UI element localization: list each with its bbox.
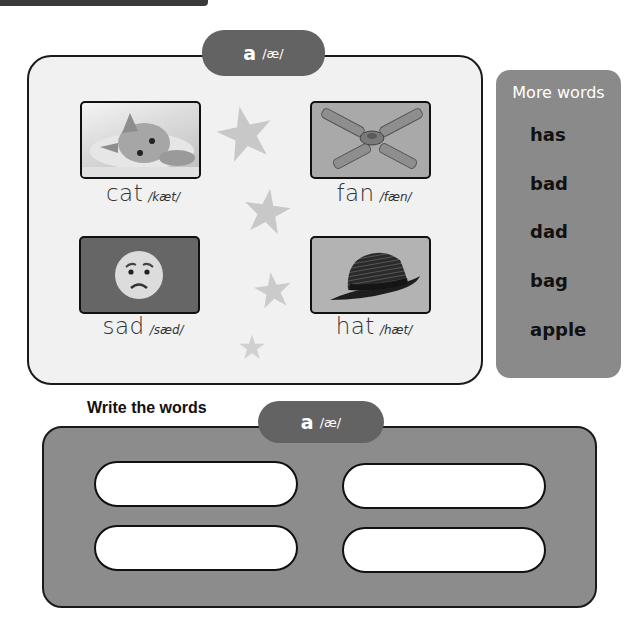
more-word-item: apple xyxy=(530,319,586,340)
star-icon xyxy=(250,270,296,310)
more-word-item: bag xyxy=(530,270,568,291)
word-label-fan: fan /fæn/ xyxy=(294,180,454,206)
write-words-heading: Write the words xyxy=(87,399,207,417)
star-icon xyxy=(238,333,266,361)
more-words-panel: More words has bad dad bag apple xyxy=(496,70,621,378)
picture-card-sad xyxy=(79,236,200,314)
word-label-hat: hat /hæt/ xyxy=(294,313,454,339)
phoneme-badge-write: a /æ/ xyxy=(258,401,384,443)
phoneme-ipa: /æ/ xyxy=(320,415,342,430)
top-banner-edge xyxy=(0,0,208,6)
fedora-hat-image xyxy=(312,238,431,312)
phoneme-ipa: /æ/ xyxy=(262,46,284,61)
word-input-1[interactable] xyxy=(94,461,298,507)
word-label-cat: cat /kæt/ xyxy=(63,180,223,206)
kitten-image xyxy=(82,103,199,177)
more-word-item: dad xyxy=(530,221,568,242)
more-words-title: More words xyxy=(496,83,621,102)
picture-card-hat xyxy=(310,236,431,314)
star-icon xyxy=(242,186,292,236)
word-input-3[interactable] xyxy=(94,525,298,571)
ceiling-fan-image xyxy=(312,103,431,177)
phoneme-badge: a /æ/ xyxy=(202,30,325,76)
picture-card-fan xyxy=(310,101,431,179)
picture-card-cat xyxy=(80,101,201,179)
more-word-item: bad xyxy=(530,173,568,194)
sad-face-icon xyxy=(81,238,198,312)
more-word-item: has xyxy=(530,124,566,145)
word-label-sad: sad /sæd/ xyxy=(63,313,223,339)
word-input-4[interactable] xyxy=(342,527,546,573)
write-words-panel xyxy=(42,426,597,608)
phoneme-letter: a xyxy=(243,42,256,64)
word-input-2[interactable] xyxy=(342,463,546,509)
phoneme-letter: a xyxy=(301,411,314,433)
star-icon xyxy=(215,103,275,163)
